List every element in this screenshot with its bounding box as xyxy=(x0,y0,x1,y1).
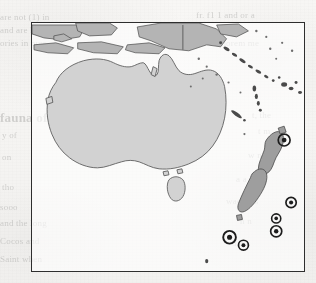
stray-scan-mark xyxy=(205,259,208,263)
record-marker-2[interactable] xyxy=(286,197,296,207)
oceania-map xyxy=(32,23,304,271)
record-marker-4[interactable] xyxy=(271,226,282,237)
record-marker-6[interactable] xyxy=(238,240,248,250)
tasmania xyxy=(163,169,185,201)
scanned-page: are not (1) inand are knoories in presfa… xyxy=(0,0,316,283)
record-marker-5[interactable] xyxy=(223,231,236,244)
map-frame xyxy=(31,22,305,272)
australia xyxy=(46,54,226,169)
record-marker-3[interactable] xyxy=(272,214,281,223)
